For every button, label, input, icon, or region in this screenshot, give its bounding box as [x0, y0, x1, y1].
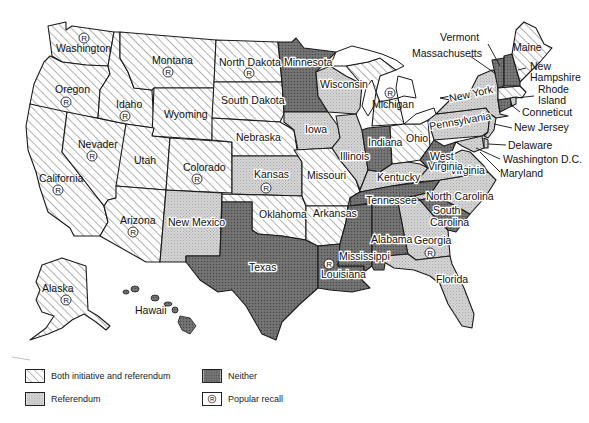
- label-south-carolina-1: South: [433, 204, 461, 216]
- label-colorado: Colorado: [183, 161, 226, 173]
- svg-text:R: R: [210, 396, 215, 402]
- swatch-hatch-icon: [25, 369, 45, 383]
- leader-delaware: [488, 144, 506, 145]
- recall-symbol-icon: R: [202, 392, 222, 406]
- label-utah: Utah: [134, 154, 156, 166]
- leader-new-jersey: [494, 124, 512, 128]
- legend-item-recall: R Popular recall: [202, 389, 283, 409]
- recall-icon-michigan: R: [385, 88, 395, 98]
- label-montana: Montana: [152, 54, 193, 66]
- svg-text:R: R: [63, 98, 69, 107]
- label-arizona: Arizona: [120, 214, 156, 226]
- legend-label-both: Both initiative and referendum: [51, 371, 171, 381]
- svg-text:R: R: [55, 186, 61, 195]
- svg-text:R: R: [387, 89, 393, 98]
- label-indiana: Indiana: [368, 136, 403, 148]
- svg-text:R: R: [89, 152, 95, 161]
- legend-item-both: Both initiative and referendum: [25, 366, 171, 386]
- label-vermont: Vermont: [440, 31, 479, 43]
- state-massachusetts: [498, 86, 526, 100]
- label-south-carolina-2: Carolina: [430, 216, 469, 228]
- label-south-dakota: South Dakota: [221, 94, 285, 106]
- label-washington: Washington: [56, 42, 111, 54]
- recall-icon-kansas: R: [261, 183, 271, 193]
- label-georgia: Georgia: [414, 234, 452, 246]
- label-tennessee: Tennessee: [366, 194, 417, 206]
- label-north-carolina: North Carolina: [426, 190, 494, 202]
- label-delaware: Delaware: [508, 139, 553, 151]
- label-alabama: Alabama: [371, 233, 413, 245]
- label-california: California: [39, 172, 84, 184]
- svg-text:R: R: [194, 175, 200, 184]
- svg-text:R: R: [130, 228, 136, 237]
- label-nebraska: Nebraska: [236, 131, 281, 143]
- legend-item-neither: Neither: [202, 366, 257, 386]
- recall-icon-nevada: R: [87, 151, 97, 161]
- state-florida: [384, 254, 474, 328]
- label-kansas: Kansas: [254, 168, 289, 180]
- label-massachusetts: Massachusetts: [412, 47, 482, 59]
- svg-text:R: R: [165, 68, 171, 77]
- label-missouri: Missouri: [307, 169, 346, 181]
- label-ohio: Ohio: [406, 132, 428, 144]
- label-idaho: Idaho: [116, 98, 142, 110]
- legend-item-referendum: Referendum: [25, 389, 101, 409]
- label-oregon: Oregon: [55, 83, 90, 95]
- label-maryland: Maryland: [500, 167, 543, 179]
- recall-icon-montana: R: [163, 67, 173, 77]
- label-north-dakota: North Dakota: [219, 56, 281, 68]
- leader-washington-dc: [476, 148, 500, 159]
- label-texas: Texas: [249, 261, 276, 273]
- svg-text:R: R: [63, 296, 69, 305]
- label-west-virginia-2: Virginia: [428, 160, 463, 172]
- label-new-jersey: New Jersey: [514, 121, 570, 133]
- label-connecticut: Conneticut: [522, 106, 572, 118]
- recall-icon-arizona: R: [128, 227, 138, 237]
- recall-icon-oregon: R: [61, 97, 71, 107]
- label-hawaii: Hawaii: [135, 304, 167, 316]
- svg-text:R: R: [81, 34, 87, 43]
- svg-text:R: R: [263, 184, 269, 193]
- svg-text:R: R: [246, 69, 252, 78]
- legend-label-referendum: Referendum: [51, 394, 101, 404]
- stray-mark: [12, 357, 30, 360]
- recall-icon-alaska: R: [61, 295, 71, 305]
- label-rhode-island-2: Island: [538, 94, 566, 106]
- recall-icon-colorado: R: [192, 174, 202, 184]
- recall-icon-north-dakota: R: [244, 68, 254, 78]
- svg-text:R: R: [122, 112, 128, 121]
- leader-connecticut: [510, 104, 520, 112]
- label-washington-dc: Washington D.C.: [503, 153, 582, 165]
- label-new-mexico: New Mexico: [168, 216, 225, 228]
- label-new-hampshire-2: Hampshire: [530, 71, 581, 83]
- label-louisiana: Louisiana: [321, 268, 366, 280]
- us-map: Washington Oregon California Nevader Ida…: [0, 0, 589, 423]
- label-oklahoma: Oklahoma: [259, 208, 307, 220]
- recall-icon-california: R: [53, 185, 63, 195]
- label-illinois: Illinois: [340, 150, 369, 162]
- label-michigan: Michigan: [372, 98, 414, 110]
- recall-icon-louisiana: R: [324, 259, 334, 269]
- label-florida: Florida: [436, 273, 468, 285]
- label-alaska: Alaska: [42, 282, 74, 294]
- label-arkansas: Arkansas: [313, 207, 357, 219]
- label-wyoming: Wyoming: [164, 108, 208, 120]
- recall-icon-idaho: R: [120, 111, 130, 121]
- svg-text:R: R: [326, 260, 332, 269]
- label-wisconsin: Wisconsin: [320, 78, 368, 90]
- svg-text:R: R: [427, 249, 433, 258]
- label-nevader: Nevader: [78, 138, 118, 150]
- legend-label-recall: Popular recall: [228, 394, 283, 404]
- recall-icon-georgia: R: [425, 248, 435, 258]
- legend-label-neither: Neither: [228, 371, 257, 381]
- label-iowa: Iowa: [305, 123, 327, 135]
- label-maine: Maine: [513, 41, 542, 53]
- map-legend: Both initiative and referendum Referendu…: [25, 366, 425, 410]
- recall-icon-washington: R: [79, 33, 89, 43]
- swatch-dotted-icon: [25, 392, 45, 406]
- swatch-dark-grid-icon: [202, 369, 222, 383]
- label-mississippi: Mississippi: [339, 250, 390, 262]
- label-kentucky: Kentucky: [377, 171, 421, 183]
- label-minnesota: Minnesota: [284, 56, 333, 68]
- state-delaware: [484, 138, 488, 148]
